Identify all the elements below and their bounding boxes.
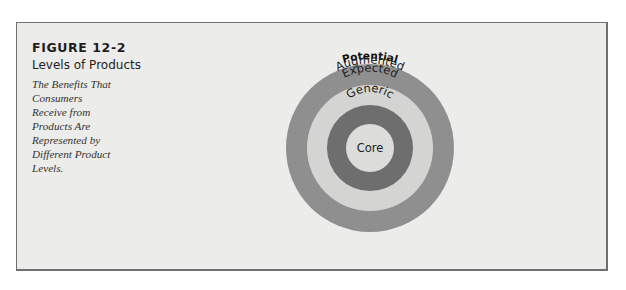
- product-levels-diagram: Potential Augmented Expected Generic Cor…: [0, 0, 626, 290]
- label-core: Core: [357, 141, 384, 155]
